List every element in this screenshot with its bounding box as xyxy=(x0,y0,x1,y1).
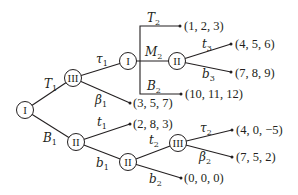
payoff-b2: (0, 0, 0) xyxy=(184,172,224,184)
payoff-beta1: (3, 5, 7) xyxy=(133,97,173,109)
edge-label-T1: T1 xyxy=(44,78,57,95)
edge-label-b1: b1 xyxy=(96,157,109,174)
edge-label-beta2: β2 xyxy=(199,151,211,168)
edge-label-beta1: β1 xyxy=(95,94,107,111)
edge-label-B2: B2 xyxy=(147,80,161,97)
node-player-3-after-t2: III xyxy=(169,134,187,152)
edge-label-tau1: τ1 xyxy=(96,53,108,70)
edge-label-b3: b3 xyxy=(202,68,215,85)
payoff-t1: (2, 8, 3) xyxy=(133,118,173,130)
payoff-tau2: (4, 0, −5) xyxy=(236,124,283,136)
node-player-1-after-tau1: I xyxy=(119,52,137,70)
node-player-2-after-B1: II xyxy=(67,133,85,151)
edge-label-T2: T2 xyxy=(147,12,160,29)
edge-label-t1: t1 xyxy=(97,116,107,133)
node-player-3-after-T1: III xyxy=(64,69,82,87)
payoff-T2: (1, 2, 3) xyxy=(184,20,224,32)
payoff-t3: (4, 5, 6) xyxy=(235,38,275,50)
edge-label-b2: b2 xyxy=(149,173,162,190)
payoff-b3: (7, 8, 9) xyxy=(235,67,275,79)
edge-label-t3: t3 xyxy=(202,38,212,55)
edge-label-B1: B1 xyxy=(43,132,57,149)
edge-label-M2: M2 xyxy=(145,46,162,63)
payoff-beta2: (7, 5, 2) xyxy=(236,151,276,163)
edge-label-t2: t2 xyxy=(149,134,159,151)
node-player-2-after-b1: II xyxy=(119,153,137,171)
node-root-player-1: I xyxy=(16,101,34,119)
edge-label-tau2: τ2 xyxy=(200,122,212,139)
payoff-B2: (10, 11, 12) xyxy=(185,88,243,100)
game-tree-diagram: I III I II II II III T1 B1 τ1 β1 T2 M2 B… xyxy=(0,0,298,195)
node-player-2-after-M2: II xyxy=(168,52,186,70)
